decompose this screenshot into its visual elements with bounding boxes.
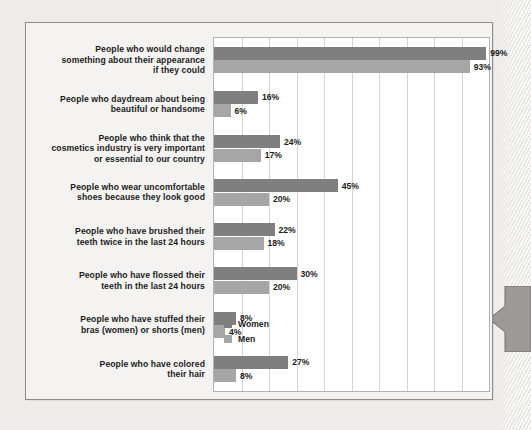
bar-men: 18% xyxy=(214,237,264,250)
bar-row-label: People who would changesomething about t… xyxy=(21,44,205,75)
bar-row-label-line: People who have flossed their xyxy=(21,270,205,280)
bar-women: 30% xyxy=(214,267,297,280)
bar-row-label-line: if they could xyxy=(21,65,205,75)
bar-row-label-line: People who have brushed their xyxy=(21,226,205,236)
bar-row-label: People who wear uncomfortableshoes becau… xyxy=(21,182,205,203)
legend-label-women: Women xyxy=(238,319,269,329)
bar-row-label: People who daydream about beingbeautiful… xyxy=(21,94,205,115)
legend: Women Men xyxy=(224,319,269,349)
bar-women: 99% xyxy=(214,47,486,60)
bar-women: 27% xyxy=(214,356,288,369)
bar-value-label: 8% xyxy=(240,371,252,381)
bar-row-label: People who have stuffed theirbras (women… xyxy=(21,314,205,335)
bar-men: 8% xyxy=(214,369,236,382)
bar-row: People who think that thecosmetics indus… xyxy=(214,126,489,170)
bar-row: People who have brushed theirteeth twice… xyxy=(214,215,489,259)
bar-value-label: 20% xyxy=(273,194,290,204)
bar-row-label-line: People who daydream about being xyxy=(21,94,205,104)
bar-row-label-line: bras (women) or shorts (men) xyxy=(21,325,205,335)
bar-row-label-line: or essential to our country xyxy=(21,154,205,164)
bar-value-label: 20% xyxy=(273,282,290,292)
page-edge-fade xyxy=(497,0,531,430)
bar-pair: 22%18% xyxy=(214,215,489,259)
bar-row-label-line: People who have stuffed their xyxy=(21,314,205,324)
bar-row: People who have flossed theirteeth in th… xyxy=(214,259,489,303)
bar-value-label: 16% xyxy=(262,92,279,102)
left-pointing-arrow-icon xyxy=(489,286,531,352)
bar-row-label: People who have flossed theirteeth in th… xyxy=(21,270,205,291)
bar-row-label: People who have brushed theirteeth twice… xyxy=(21,226,205,247)
bar-men: 17% xyxy=(214,149,261,162)
bar-value-label: 22% xyxy=(279,225,296,235)
chart-panel: People who would changesomething about t… xyxy=(25,22,493,400)
bar-row: People who would changesomething about t… xyxy=(214,38,489,82)
legend-swatch-men xyxy=(224,335,232,343)
bar-value-label: 24% xyxy=(284,137,301,147)
bar-value-label: 45% xyxy=(342,181,359,191)
bar-row-label-line: something about their appearance xyxy=(21,55,205,65)
bar-women: 24% xyxy=(214,135,280,148)
bar-row-label-line: teeth in the last 24 hours xyxy=(21,281,205,291)
bar-pair: 24%17% xyxy=(214,126,489,170)
bar-value-label: 30% xyxy=(301,269,318,279)
bar-row-label: People who think that thecosmetics indus… xyxy=(21,133,205,164)
bar-row: People who have coloredtheir hair27%8% xyxy=(214,347,489,391)
bar-men: 93% xyxy=(214,60,470,73)
bar-row-label-line: People who would change xyxy=(21,44,205,54)
legend-item-men: Men xyxy=(224,334,269,344)
legend-label-men: Men xyxy=(238,334,255,344)
bar-value-label: 99% xyxy=(490,48,507,58)
bar-men: 6% xyxy=(214,104,231,117)
bar-pair: 99%93% xyxy=(214,38,489,82)
bar-women: 45% xyxy=(214,179,338,192)
bar-row-label-line: People who wear uncomfortable xyxy=(21,182,205,192)
bar-row-label-line: shoes because they look good xyxy=(21,192,205,202)
bar-row: People who wear uncomfortableshoes becau… xyxy=(214,170,489,214)
bar-value-label: 27% xyxy=(292,357,309,367)
bar-row-label-line: beautiful or handsome xyxy=(21,104,205,114)
bar-row-label-line: their hair xyxy=(21,369,205,379)
bar-row: People who daydream about beingbeautiful… xyxy=(214,82,489,126)
bar-pair: 30%20% xyxy=(214,259,489,303)
bar-row-label-line: cosmetics industry is very important xyxy=(21,143,205,153)
bar-women: 16% xyxy=(214,91,258,104)
bar-pair: 16%6% xyxy=(214,82,489,126)
bar-value-label: 93% xyxy=(474,62,491,72)
bar-row-label: People who have coloredtheir hair xyxy=(21,359,205,380)
bar-value-label: 17% xyxy=(265,150,282,160)
bar-value-label: 6% xyxy=(235,106,247,116)
bar-value-label: 18% xyxy=(268,238,285,248)
bar-women: 22% xyxy=(214,223,275,236)
bar-men: 20% xyxy=(214,281,269,294)
bar-pair: 27%8% xyxy=(214,347,489,391)
grouped-bar-chart: People who would changesomething about t… xyxy=(26,23,492,399)
legend-item-women: Women xyxy=(224,319,269,329)
bar-row-label-line: People who think that the xyxy=(21,133,205,143)
bar-row-label-line: teeth twice in the last 24 hours xyxy=(21,237,205,247)
bar-row-label-line: People who have colored xyxy=(21,359,205,369)
legend-swatch-women xyxy=(224,320,232,328)
bar-pair: 45%20% xyxy=(214,170,489,214)
bar-men: 20% xyxy=(214,193,269,206)
